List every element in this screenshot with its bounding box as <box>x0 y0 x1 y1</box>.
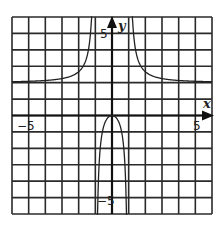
y-tick-max: 5 <box>100 27 108 41</box>
x-tick-min: −5 <box>17 119 35 133</box>
y-tick-min: −5 <box>97 194 115 208</box>
x-tick-max: 5 <box>193 119 201 133</box>
function-graph: x y −5 5 5 −5 <box>0 0 224 229</box>
y-axis-label: y <box>117 18 127 33</box>
x-axis-label: x <box>202 96 211 111</box>
